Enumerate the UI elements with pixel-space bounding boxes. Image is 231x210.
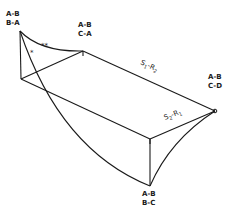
edge-front-left (21, 79, 150, 139)
edge-label-s1r2: S1-R2 (139, 59, 159, 75)
label-v3-bottom: C-D (208, 82, 222, 90)
label-v4-bottom: B-C (142, 199, 155, 207)
marker-double-star: ** (41, 42, 49, 50)
marker-single-star: * (30, 49, 34, 57)
svg-text:S2-R1: S2-R1 (163, 108, 183, 123)
edge-label-s2r1: S2-R1 (163, 108, 183, 123)
edge-top-s1r2 (83, 51, 215, 111)
curve-right (150, 111, 215, 186)
edge-left-vertical (20, 31, 21, 79)
label-v2-bottom: C-A (78, 30, 92, 38)
label-v4-top: A-B (142, 190, 156, 198)
label-v3-top: A-B (208, 73, 222, 81)
label-v1-bottom: B-A (6, 19, 20, 27)
label-v1-top: A-B (6, 10, 20, 18)
svg-text:S1-R2: S1-R2 (139, 59, 159, 75)
label-v2-top: A-B (78, 21, 92, 29)
diagram-svg: A-B B-A A-B C-A A-B C-D A-B B-C * ** S1-… (0, 0, 231, 210)
phase-diagram: A-B B-A A-B C-A A-B C-D A-B B-C * ** S1-… (0, 0, 231, 210)
